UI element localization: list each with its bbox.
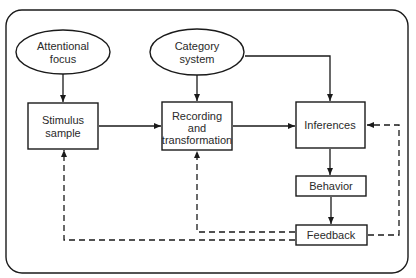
edge-feedback-to-stimulus [64,150,295,240]
attentional-focus-label-2: focus [50,53,77,65]
node-behavior: Behavior [296,176,366,196]
inferences-label: Inferences [304,119,356,131]
behavior-label: Behavior [309,180,353,192]
stimulus-sample-label-1: Stimulus [42,114,85,126]
edge-feedback-to-recording [197,151,295,232]
stimulus-sample-label-2: sample [45,127,80,139]
recording-label-1: Recording [172,110,222,122]
edge-feedback-to-inferences [367,125,399,235]
recording-label-2: and [188,122,206,134]
edge-category-to-inferences [245,56,330,101]
node-recording-transformation: Recording and transformation [162,102,232,150]
node-inferences: Inferences [296,102,365,148]
feedback-label: Feedback [307,229,356,241]
attentional-focus-label-1: Attentional [37,40,89,52]
node-category-system: Category system [150,29,244,75]
category-system-label-2: system [180,53,215,65]
node-attentional-focus: Attentional focus [16,30,110,74]
recording-label-3: transformation [162,134,232,146]
category-system-label-1: Category [175,40,220,52]
node-stimulus-sample: Stimulus sample [28,103,98,149]
diagram-canvas: Attentional focus Category system Stimul… [0,0,416,278]
node-feedback: Feedback [296,225,367,245]
